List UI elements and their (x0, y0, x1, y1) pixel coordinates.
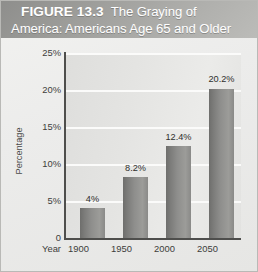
figure-title-bar: FIGURE 13.3The Graying of America: Ameri… (1, 1, 258, 38)
x-tick-label-1950: 1950 (103, 243, 140, 254)
y-tick-label-15: 15% (21, 122, 61, 132)
y-axis-tick-labels: 25% 20% 15% 10% 5% 0 (15, 38, 61, 272)
figure-title-line-2: America: Americans Age 65 and Older (11, 20, 253, 37)
x-tick-label-1900: 1900 (60, 243, 97, 254)
y-tick-label-0: 0 (21, 233, 61, 243)
figure-container: FIGURE 13.3The Graying of America: Ameri… (0, 0, 258, 272)
bar-1900 (80, 208, 105, 238)
figure-title-text-1: The Graying of (111, 4, 197, 19)
gridline-25 (65, 53, 241, 55)
y-tick-label-10: 10% (21, 159, 61, 169)
figure-title-line-1: FIGURE 13.3The Graying of (11, 3, 253, 20)
bar-2000 (166, 146, 191, 238)
figure-number-label: FIGURE 13.3 (21, 4, 104, 19)
x-axis-line (64, 238, 241, 240)
bar-label-2050: 20.2% (201, 74, 242, 84)
x-tick-label-2050: 2050 (189, 243, 226, 254)
bar-label-2000: 12.4% (158, 132, 199, 142)
plot-area: 4% 8.2% 12.4% 20.2% (65, 53, 241, 238)
x-tick-label-2000: 2000 (146, 243, 183, 254)
bar-1950 (123, 177, 148, 238)
y-axis-line (64, 52, 66, 239)
x-axis-title: Year (15, 243, 61, 254)
y-tick-label-20: 20% (21, 85, 61, 95)
bar-2050 (209, 89, 234, 239)
bar-label-1900: 4% (72, 194, 113, 204)
bar-chart: Percentage 25% 20% 15% 10% 5% 0 4% 8.2% … (1, 38, 258, 272)
bar-label-1950: 8.2% (115, 163, 156, 173)
y-tick-label-5: 5% (21, 196, 61, 206)
y-tick-label-25: 25% (21, 48, 61, 58)
